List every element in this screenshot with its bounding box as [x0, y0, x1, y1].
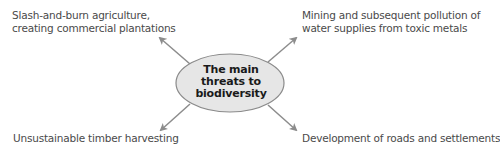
arrow-top-left	[160, 38, 190, 64]
threat-bottom-left: Unsustainable timber harvesting	[13, 132, 179, 145]
threat-text-line: creating commercial plantations	[12, 22, 176, 35]
arrow-bottom-left	[161, 104, 190, 130]
threat-text-line: Mining and subsequent pollution of	[302, 9, 480, 22]
threat-text-line: water supplies from toxic metals	[302, 22, 480, 35]
threat-bottom-right: Development of roads and settlements	[302, 132, 500, 145]
threat-text-line: Slash-and-burn agriculture,	[12, 9, 176, 22]
arrow-bottom-right	[268, 105, 296, 130]
threat-top-left: Slash-and-burn agriculture, creating com…	[12, 9, 176, 35]
center-line-3: biodiversity	[186, 88, 276, 100]
center-topic: The main threats to biodiversity	[186, 64, 276, 100]
arrow-top-right	[268, 38, 296, 62]
threat-text-line: Unsustainable timber harvesting	[13, 132, 179, 145]
threat-text-line: Development of roads and settlements	[302, 132, 500, 145]
threat-top-right: Mining and subsequent pollution of water…	[302, 9, 480, 35]
